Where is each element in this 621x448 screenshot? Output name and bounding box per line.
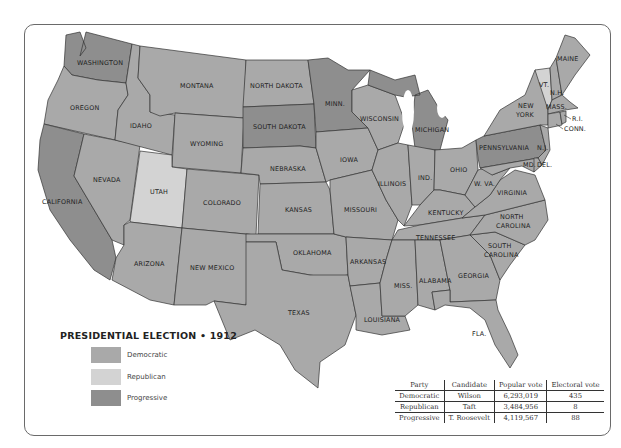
label-north-dakota: NORTH DAKOTA [250,82,303,90]
label-oklahoma: OKLAHOMA [293,249,332,257]
label-massachusetts: MASS. [546,103,567,111]
cell-electoral-vote: 435 [547,391,604,402]
results-header-row: Party Candidate Popular vote Electoral v… [395,380,604,391]
label-california: CALIFORNIA [42,198,83,206]
label-new-jersey: N.J. [537,144,549,152]
state-connecticut[interactable] [548,112,562,128]
label-kentucky: KENTUCKY [428,209,464,217]
label-wyoming: WYOMING [190,140,223,148]
label-ohio: OHIO [450,166,468,174]
label-new-hampshire: N.H. [550,89,564,97]
results-table: Party Candidate Popular vote Electoral v… [395,380,604,423]
legend-label-republican: Republican [127,373,166,381]
label-north-carolina-2: CAROLINA [496,222,531,230]
label-vermont: VT. [539,81,549,89]
legend-swatch-democratic [91,347,121,363]
label-kansas: KANSAS [285,206,312,214]
label-louisiana: LOUISIANA [364,316,401,324]
label-oregon: OREGON [70,104,99,112]
legend-swatch-progressive [91,390,121,406]
label-new-york-1: NEW [518,102,534,110]
cell-popular-vote: 4,119,567 [495,413,547,424]
label-iowa: IOWA [340,156,358,164]
legend-label-democratic: Democratic [127,351,167,359]
legend-item-progressive: Progressive [91,390,167,406]
label-virginia: VIRGINIA [497,189,528,197]
cell-popular-vote: 3,484,956 [495,402,547,413]
label-connecticut: CONN. [564,125,586,133]
label-montana: MONTANA [180,82,214,90]
cell-party: Progressive [395,413,444,424]
label-michigan: MICHIGAN [415,126,449,134]
label-north-carolina-1: NORTH [500,213,524,221]
cell-party: Republican [395,402,444,413]
label-mississippi: MISS. [394,282,413,290]
cell-candidate: Taft [444,402,494,413]
label-colorado: COLORADO [203,199,241,207]
label-utah: UTAH [150,188,168,196]
state-florida[interactable] [432,290,518,368]
label-nevada: NEVADA [93,176,121,184]
label-minnesota: MINN. [325,100,345,108]
map-title: PRESIDENTIAL ELECTION • 1912 [60,330,237,341]
cell-electoral-vote: 88 [547,413,604,424]
label-florida: FLA. [472,330,486,338]
label-south-carolina-2: CAROLINA [484,251,519,259]
header-popular-vote: Popular vote [495,380,547,391]
header-party: Party [395,380,444,391]
label-maryland: MD. [523,161,536,169]
cell-electoral-vote: 8 [547,402,604,413]
label-nebraska: NEBRASKA [270,165,306,173]
cell-candidate: Wilson [444,391,494,402]
label-delaware: DEL. [537,161,552,169]
label-washington: WASHINGTON [77,59,123,67]
cell-candidate: T. Roosevelt [444,413,494,424]
label-texas: TEXAS [287,309,310,317]
cell-popular-vote: 6,293,019 [495,391,547,402]
label-new-mexico: NEW MEXICO [190,264,234,272]
state-maine[interactable] [556,35,590,95]
table-row: Progressive T. Roosevelt 4,119,567 88 [395,413,604,424]
label-tennessee: TENNESSEE [415,234,456,242]
label-illinois: ILLINOIS [378,180,406,188]
label-south-carolina-1: SOUTH [488,242,511,250]
label-new-york-2: YORK [515,111,535,119]
legend-item-democratic: Democratic [91,347,167,363]
cell-party: Democratic [395,391,444,402]
table-row: Democratic Wilson 6,293,019 435 [395,391,604,402]
label-georgia: GEORGIA [458,272,489,280]
label-missouri: MISSOURI [344,206,377,214]
label-south-dakota: SOUTH DAKOTA [253,123,306,131]
label-west-virginia: W. VA. [474,180,495,188]
label-indiana: IND. [418,174,432,182]
label-alabama: ALABAMA [419,277,452,285]
legend-item-republican: Republican [91,369,166,385]
legend-label-progressive: Progressive [127,394,167,402]
legend-swatch-republican [91,369,121,385]
header-candidate: Candidate [444,380,494,391]
label-maine: MAINE [557,55,579,63]
table-row: Republican Taft 3,484,956 8 [395,402,604,413]
header-electoral-vote: Electoral vote [547,380,604,391]
label-rhode-island: R.I. [572,115,583,123]
label-idaho: IDAHO [130,122,152,130]
lake-michigan [402,90,414,134]
label-arizona: ARIZONA [134,260,165,268]
label-arkansas: ARKANSAS [350,258,386,266]
lake-huron [437,98,447,118]
label-pennsylvania: PENNSYLVANIA [479,144,529,152]
label-wisconsin: WISCONSIN [360,115,399,123]
